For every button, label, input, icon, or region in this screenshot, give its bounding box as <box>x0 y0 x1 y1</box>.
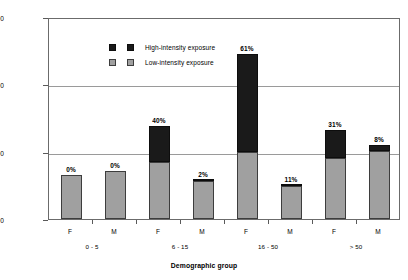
x-category-label-4: F <box>244 228 248 235</box>
legend-label-high-intensity: High-intensity exposure <box>145 44 215 51</box>
bar-segment-low-0 <box>61 175 82 219</box>
y-tick-mark-0 <box>43 220 48 221</box>
bar-percent-label-3: 2% <box>198 171 208 178</box>
bar-segment-high-5 <box>281 184 302 186</box>
y-tick-label-6000: 6000 <box>0 15 4 22</box>
bar-segment-high-2 <box>149 126 170 161</box>
x-group-label-1: 6 - 15 <box>172 243 188 250</box>
bar-segment-low-7 <box>369 151 390 219</box>
bar-segment-low-6 <box>325 158 346 219</box>
bar-percent-label-2: 40% <box>152 117 165 124</box>
x-tick-mark-0 <box>92 220 93 224</box>
bar-segment-high-3 <box>193 179 214 181</box>
bar-7: 8% <box>369 145 390 219</box>
x-axis-title: Demographic group <box>0 262 408 269</box>
bar-4: 61% <box>237 54 258 219</box>
plot-area: 0%0%40%2%61%11%31%8% High-intensity expo… <box>48 18 400 220</box>
bar-percent-label-0: 0% <box>66 166 76 173</box>
bar-segment-low-5 <box>281 186 302 219</box>
bar-1: 0% <box>105 171 126 219</box>
bar-percent-label-1: 0% <box>110 162 120 169</box>
bar-segment-low-4 <box>237 152 258 219</box>
x-category-label-3: M <box>199 228 204 235</box>
bar-segment-high-4 <box>237 54 258 152</box>
gridline-4000 <box>49 86 399 87</box>
bar-percent-label-6: 31% <box>328 121 341 128</box>
legend-item-high-intensity: High-intensity exposure <box>109 41 215 53</box>
bar-0: 0% <box>61 175 82 219</box>
x-category-label-7: M <box>375 228 380 235</box>
x-category-label-2: F <box>156 228 160 235</box>
x-category-label-1: M <box>111 228 116 235</box>
bar-segment-low-1 <box>105 171 126 219</box>
gridline-2000 <box>49 154 399 155</box>
x-category-label-6: F <box>332 228 336 235</box>
bar-5: 11% <box>281 185 302 219</box>
x-tick-mark-6 <box>356 220 357 224</box>
x-tick-mark-3 <box>224 220 225 224</box>
bar-3: 2% <box>193 180 214 219</box>
legend-swatch-high-a-icon <box>109 44 116 51</box>
x-tick-mark-4 <box>268 220 269 224</box>
bar-percent-label-7: 8% <box>374 136 384 143</box>
x-tick-mark-2 <box>180 220 181 224</box>
bar-segment-high-6 <box>325 130 346 158</box>
x-group-label-2: 16 - 50 <box>258 243 278 250</box>
x-category-label-0: F <box>68 228 72 235</box>
legend-swatch-high-b-icon <box>127 44 134 51</box>
legend: High-intensity exposure Low-intensity ex… <box>109 41 215 71</box>
bar-segment-low-3 <box>193 181 214 219</box>
bar-segment-low-2 <box>149 162 170 219</box>
bar-6: 31% <box>325 130 346 219</box>
x-tick-mark-1 <box>136 220 137 224</box>
y-tick-label-4000: 4000 <box>0 82 4 89</box>
legend-swatch-low-b-icon <box>127 59 134 66</box>
legend-label-low-intensity: Low-intensity exposure <box>145 59 214 66</box>
y-tick-label-2000: 2000 <box>0 149 4 156</box>
legend-swatch-low-a-icon <box>109 59 116 66</box>
legend-item-low-intensity: Low-intensity exposure <box>109 56 215 68</box>
bar-percent-label-4: 61% <box>240 45 253 52</box>
bar-segment-high-7 <box>369 145 390 151</box>
x-category-label-5: M <box>287 228 292 235</box>
x-tick-mark-5 <box>312 220 313 224</box>
pm10-exposure-bar-chart: PM10 exposure concentration (μ g / m3 ) … <box>0 0 408 280</box>
y-tick-label-0: 0 <box>0 217 4 224</box>
x-group-label-0: 0 - 5 <box>86 243 99 250</box>
bar-2: 40% <box>149 126 170 219</box>
x-group-label-3: > 50 <box>350 243 363 250</box>
bar-percent-label-5: 11% <box>285 176 298 183</box>
